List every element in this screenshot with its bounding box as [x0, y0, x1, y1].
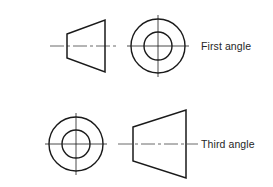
third-angle-side-view [118, 110, 198, 178]
first-angle-center-mark [157, 45, 159, 47]
third-angle-center-mark [75, 143, 77, 145]
first-angle-label: First angle [201, 40, 251, 52]
first-angle-side-view [50, 20, 118, 72]
third-angle-row [45, 110, 198, 178]
drawing-canvas [0, 0, 273, 187]
projection-convention-diagram: First angle Third angle [0, 0, 273, 187]
first-angle-end-view [127, 15, 189, 77]
first-angle-row [50, 15, 189, 77]
third-angle-end-view [45, 113, 107, 175]
third-angle-label: Third angle [201, 138, 255, 150]
